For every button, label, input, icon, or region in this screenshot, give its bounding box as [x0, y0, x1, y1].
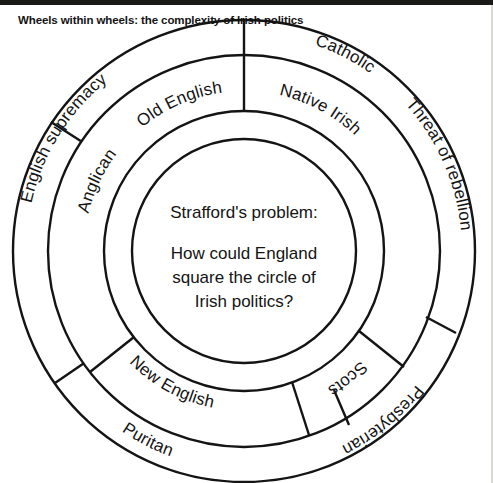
outer-ring-label-presbyterian: Presbyterian: [339, 382, 428, 459]
outer-ring-label-puritan-text: Puritan: [119, 419, 176, 460]
outer-ring-label-catholic: Catholic: [313, 31, 379, 77]
middle-ring-label-new-english: New English: [126, 352, 216, 412]
middle-ring-label-new-english-text: New English: [126, 352, 216, 412]
middle-ring-label-scots: Scots: [325, 358, 372, 401]
divider-middle-lower-right: [292, 382, 309, 435]
center-body-line-3: Irish politics?: [195, 292, 293, 311]
concentric-wheel-diagram: Catholic Threat of rebellion Presbyteria…: [0, 0, 493, 483]
figure-page: Wheels within wheels: the complexity of …: [0, 0, 493, 483]
center-heading: Strafford's problem:: [170, 203, 318, 222]
divider-middle-lower-left: [90, 337, 134, 372]
divider-outer-right: [426, 317, 456, 333]
middle-ring-label-native-irish: Native Irish: [278, 80, 365, 138]
outer-ring-label-catholic-text: Catholic: [313, 31, 379, 77]
outer-ring-label-threat-of-rebellion: Threat of rebellion: [402, 94, 476, 231]
middle-ring-label-old-english-text: Old English: [133, 78, 224, 131]
outer-ring-label-presbyterian-text: Presbyterian: [339, 382, 428, 459]
divider-middle-right: [359, 331, 404, 367]
outer-ring-dividers: [51, 20, 456, 425]
middle-ring-label-scots-text: Scots: [325, 358, 372, 401]
center-body-line-2: square the circle of: [172, 268, 316, 287]
middle-ring-label-old-english: Old English: [133, 78, 224, 131]
center-body-line-1: How could England: [171, 244, 317, 263]
outer-ring-label-puritan: Puritan: [119, 419, 176, 460]
outer-ring-label-threat-of-rebellion-text: Threat of rebellion: [402, 94, 476, 231]
divider-outer-lower-left: [55, 364, 84, 384]
middle-ring-label-native-irish-text: Native Irish: [278, 80, 365, 138]
